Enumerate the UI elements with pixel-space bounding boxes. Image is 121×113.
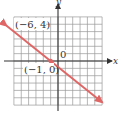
point-neg1-0	[48, 59, 52, 63]
origin-label: 0	[60, 49, 66, 60]
coordinate-plane: x y (−6, 4) 0 (−1, 0)	[0, 0, 121, 113]
point-label-neg6-4: (−6, 4)	[15, 19, 50, 30]
x-axis-label: x	[113, 56, 118, 66]
y-axis-label: y	[55, 0, 62, 7]
point-label-neg1-0: (−1, 0)	[24, 64, 59, 75]
